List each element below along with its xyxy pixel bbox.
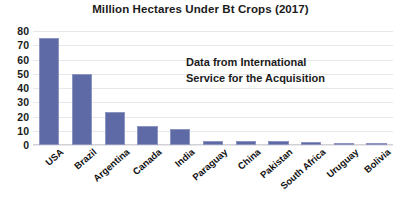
- bar-chart: Million Hectares Under Bt Crops (2017) 8…: [0, 0, 401, 215]
- bar-column[interactable]: [137, 31, 157, 145]
- bar[interactable]: [301, 142, 321, 145]
- y-axis-tick-label: 0: [0, 140, 29, 151]
- x-axis-tick-label: Canada: [131, 147, 164, 177]
- data-source-note-line: Data from International: [186, 55, 325, 71]
- x-axis-tick-label: Uruguay: [325, 147, 361, 180]
- bar[interactable]: [366, 143, 386, 145]
- x-axis-tick-label: Bolivia: [363, 147, 393, 175]
- y-axis-tick-label: 10: [0, 126, 29, 137]
- bar-column[interactable]: [366, 31, 386, 145]
- y-axis-tick-label: 20: [0, 111, 29, 122]
- bar[interactable]: [203, 141, 223, 145]
- bar[interactable]: [105, 112, 125, 145]
- bar-column[interactable]: [72, 31, 92, 145]
- bar-column[interactable]: [301, 31, 321, 145]
- bar-column[interactable]: [170, 31, 190, 145]
- bar[interactable]: [334, 143, 354, 145]
- bar[interactable]: [39, 38, 59, 145]
- x-axis-tick-label: China: [236, 147, 263, 172]
- bar[interactable]: [72, 74, 92, 145]
- y-axis-tick-label: 60: [0, 54, 29, 65]
- bars-layer: [33, 31, 393, 145]
- bar-column[interactable]: [268, 31, 288, 145]
- data-source-note: Data from InternationalService for the A…: [186, 55, 325, 87]
- x-axis-tick-label: Brazil: [72, 147, 98, 172]
- bar[interactable]: [236, 141, 256, 145]
- y-axis-tick-labels: 80706050403020100: [0, 31, 29, 145]
- bar-column[interactable]: [334, 31, 354, 145]
- y-axis-tick-label: 80: [0, 26, 29, 37]
- x-axis-tick-label: Paraguay: [191, 147, 230, 183]
- bar-column[interactable]: [39, 31, 59, 145]
- bar-column[interactable]: [203, 31, 223, 145]
- data-source-note-line: Service for the Acquisition: [186, 71, 325, 87]
- y-axis-tick-label: 70: [0, 40, 29, 51]
- bar-column[interactable]: [105, 31, 125, 145]
- bar[interactable]: [137, 126, 157, 145]
- x-axis-tick-label: USA: [44, 147, 66, 168]
- x-axis-tick-label: India: [173, 147, 197, 169]
- y-axis-tick-label: 40: [0, 83, 29, 94]
- y-axis-tick-label: 50: [0, 69, 29, 80]
- chart-title: Million Hectares Under Bt Crops (2017): [0, 3, 401, 15]
- gridline: [33, 145, 393, 146]
- x-axis-tick-labels: USABrazilArgentinaCanadaIndiaParaguayChi…: [33, 147, 393, 215]
- bar[interactable]: [268, 141, 288, 145]
- y-axis-tick-label: 30: [0, 97, 29, 108]
- bar-column[interactable]: [236, 31, 256, 145]
- bar[interactable]: [170, 129, 190, 145]
